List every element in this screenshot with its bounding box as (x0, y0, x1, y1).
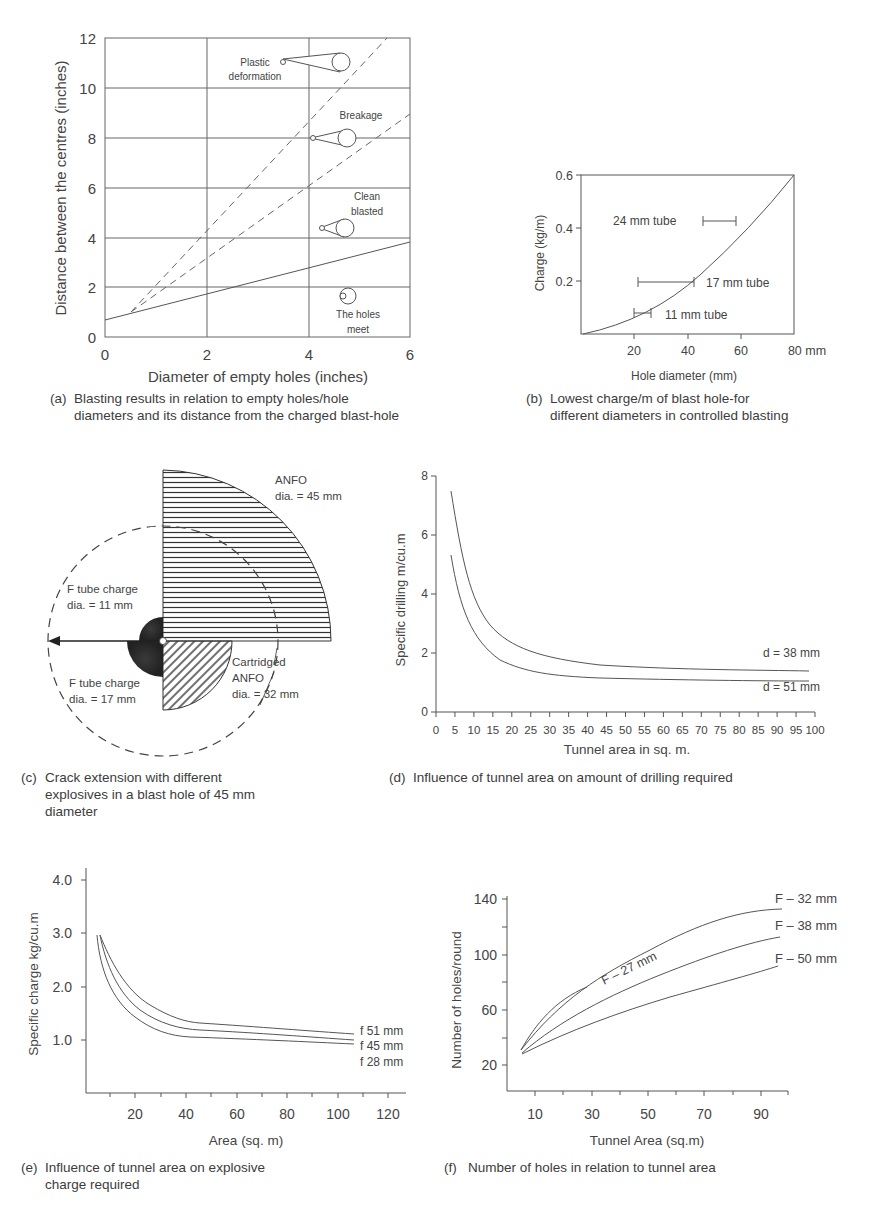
svg-text:120: 120 (376, 1106, 400, 1122)
clean-blasted-icon (320, 219, 355, 237)
chart-d-series-38mm (451, 491, 809, 671)
label-deformation: deformation (229, 71, 282, 82)
svg-text:6: 6 (406, 346, 414, 363)
svg-text:0: 0 (88, 329, 96, 346)
caption-d-tag: (d) (389, 769, 413, 786)
caption-a-tag: (a) (50, 390, 74, 407)
chart-d-x-tick-label: 55 (638, 724, 651, 736)
svg-text:0: 0 (421, 705, 428, 719)
caption-c-tag: (c) (21, 769, 45, 786)
caption-f-tag: (f) (444, 1159, 468, 1176)
svg-text:90: 90 (753, 1106, 769, 1122)
label-d-38mm: d = 38 mm (763, 646, 820, 660)
chart-a: Plastic deformation Breakage Clean blast… (52, 30, 414, 385)
chart-b-y-ticks: 0.6 0.4 0.2 (556, 169, 573, 289)
svg-text:40: 40 (178, 1106, 194, 1122)
figure-canvas: Plastic deformation Breakage Clean blast… (0, 0, 893, 1219)
caption-b-tag: (b) (526, 390, 550, 407)
chart-f-series-27mm (521, 987, 587, 1050)
svg-text:140: 140 (474, 891, 498, 907)
label-plastic: Plastic (240, 57, 269, 68)
plastic-deformation-icon (281, 53, 351, 72)
svg-text:2: 2 (203, 346, 211, 363)
label-ftube11-dia: dia. = 11 mm (67, 599, 133, 611)
label-breakage: Breakage (340, 110, 383, 121)
svg-text:20: 20 (627, 344, 641, 358)
chart-d-x-tick-label: 20 (505, 724, 518, 736)
svg-text:0.4: 0.4 (556, 222, 573, 236)
svg-text:80 mm: 80 mm (788, 344, 826, 358)
svg-text:80: 80 (279, 1106, 295, 1122)
caption-e: (e)Influence of tunnel area on explosive… (21, 1159, 421, 1193)
label-11mm-tube: 11 mm tube (665, 308, 728, 322)
chart-d-series-51mm (451, 555, 809, 681)
chart-f: F – 27 mm F – 32 mm F – 38 mm F – 50 mm … (449, 891, 837, 1148)
chart-d: d = 38 mm d = 51 mm 0 2 4 6 8 0510152025… (393, 469, 825, 757)
svg-text:20: 20 (127, 1106, 143, 1122)
ftube-17mm-sector (127, 641, 163, 677)
svg-text:8: 8 (421, 469, 428, 483)
caption-f: (f)Number of holes in relation to tunnel… (444, 1159, 864, 1176)
svg-text:0.6: 0.6 (556, 169, 573, 183)
label-the-holes: The holes (336, 309, 380, 320)
svg-text:4: 4 (88, 230, 96, 247)
svg-text:70: 70 (696, 1106, 712, 1122)
chart-d-x-tick-label: 85 (752, 724, 765, 736)
chart-f-series-32mm (521, 909, 782, 1050)
label-ftube17-dia: dia. = 17 mm (69, 693, 136, 705)
label-blasted: blasted (351, 206, 383, 217)
svg-text:100: 100 (474, 947, 498, 963)
chart-d-x-tick-label: 0 (433, 724, 439, 736)
diagram-c: ANFO dia. = 45 mm F tube charge dia. = 1… (48, 470, 342, 756)
label-e-28mm: f 28 mm (360, 1055, 403, 1069)
svg-text:8: 8 (88, 130, 96, 147)
chart-d-x-tick-label: 90 (771, 724, 784, 736)
chart-a-y-label: Distance between the centres (inches) (52, 60, 69, 315)
hole-center-dot (160, 638, 167, 645)
svg-text:4: 4 (421, 587, 428, 601)
svg-text:60: 60 (229, 1106, 245, 1122)
label-f-38mm: F – 38 mm (775, 918, 837, 933)
chart-d-x-label: Tunnel area in sq. m. (564, 742, 690, 757)
svg-text:0.2: 0.2 (556, 275, 573, 289)
chart-d-x-tick-label: 45 (600, 724, 613, 736)
chart-d-x-ticks: 0510152025303540455055606570758085909510… (433, 724, 825, 736)
svg-text:100: 100 (326, 1106, 350, 1122)
chart-b: 24 mm tube 17 mm tube 11 mm tube 0.6 0.4… (533, 169, 826, 383)
chart-d-x-tick-label: 50 (619, 724, 632, 736)
chart-f-y-ticks: 140 100 60 20 (474, 891, 498, 1073)
label-17mm-tube: 17 mm tube (706, 276, 770, 290)
cartridged-anfo-sector (163, 641, 232, 710)
label-24mm-tube: 24 mm tube (613, 214, 677, 228)
svg-text:30: 30 (584, 1106, 600, 1122)
svg-text:2: 2 (421, 646, 428, 660)
chart-b-y-label: Charge (kg/m) (533, 215, 547, 292)
chart-d-x-tick-label: 15 (486, 724, 499, 736)
svg-text:2: 2 (88, 279, 96, 296)
label-ftube17: F tube charge (69, 677, 140, 689)
chart-e-series-28mm (97, 935, 354, 1044)
chart-d-x-tick-label: 30 (543, 724, 556, 736)
caption-a: (a)Blasting results in relation to empty… (50, 390, 450, 424)
chart-e-y-ticks: 4.0 3.0 2.0 1.0 (53, 872, 73, 1048)
chart-d-x-tick-label: 60 (657, 724, 670, 736)
chart-a-x-label: Diameter of empty holes (inches) (148, 368, 368, 385)
caption-c: (c)Crack extension with different explos… (21, 769, 381, 820)
label-e-51mm: f 51 mm (360, 1024, 403, 1038)
label-cartridged: Cartridged (232, 656, 286, 668)
caption-d: (d)Influence of tunnel area on amount of… (389, 769, 889, 786)
chart-e-x-ticks: 20 40 60 80 100 120 (127, 1106, 400, 1122)
caption-b: (b)Lowest charge/m of blast hole-for dif… (526, 390, 886, 424)
chart-e-y-label: Specific charge kg/cu.m (26, 912, 41, 1055)
label-anfo: ANFO (275, 474, 307, 486)
chart-f-x-label: Tunnel Area (sq.m) (590, 1133, 704, 1148)
svg-text:3.0: 3.0 (53, 925, 73, 941)
svg-text:2.0: 2.0 (53, 979, 73, 995)
svg-text:4: 4 (305, 346, 313, 363)
chart-d-x-tick-label: 70 (695, 724, 708, 736)
chart-b-x-label: Hole diameter (mm) (631, 369, 737, 383)
label-meet: meet (347, 324, 369, 335)
svg-text:1.0: 1.0 (53, 1032, 73, 1048)
svg-text:40: 40 (681, 344, 695, 358)
svg-text:10: 10 (79, 80, 96, 97)
